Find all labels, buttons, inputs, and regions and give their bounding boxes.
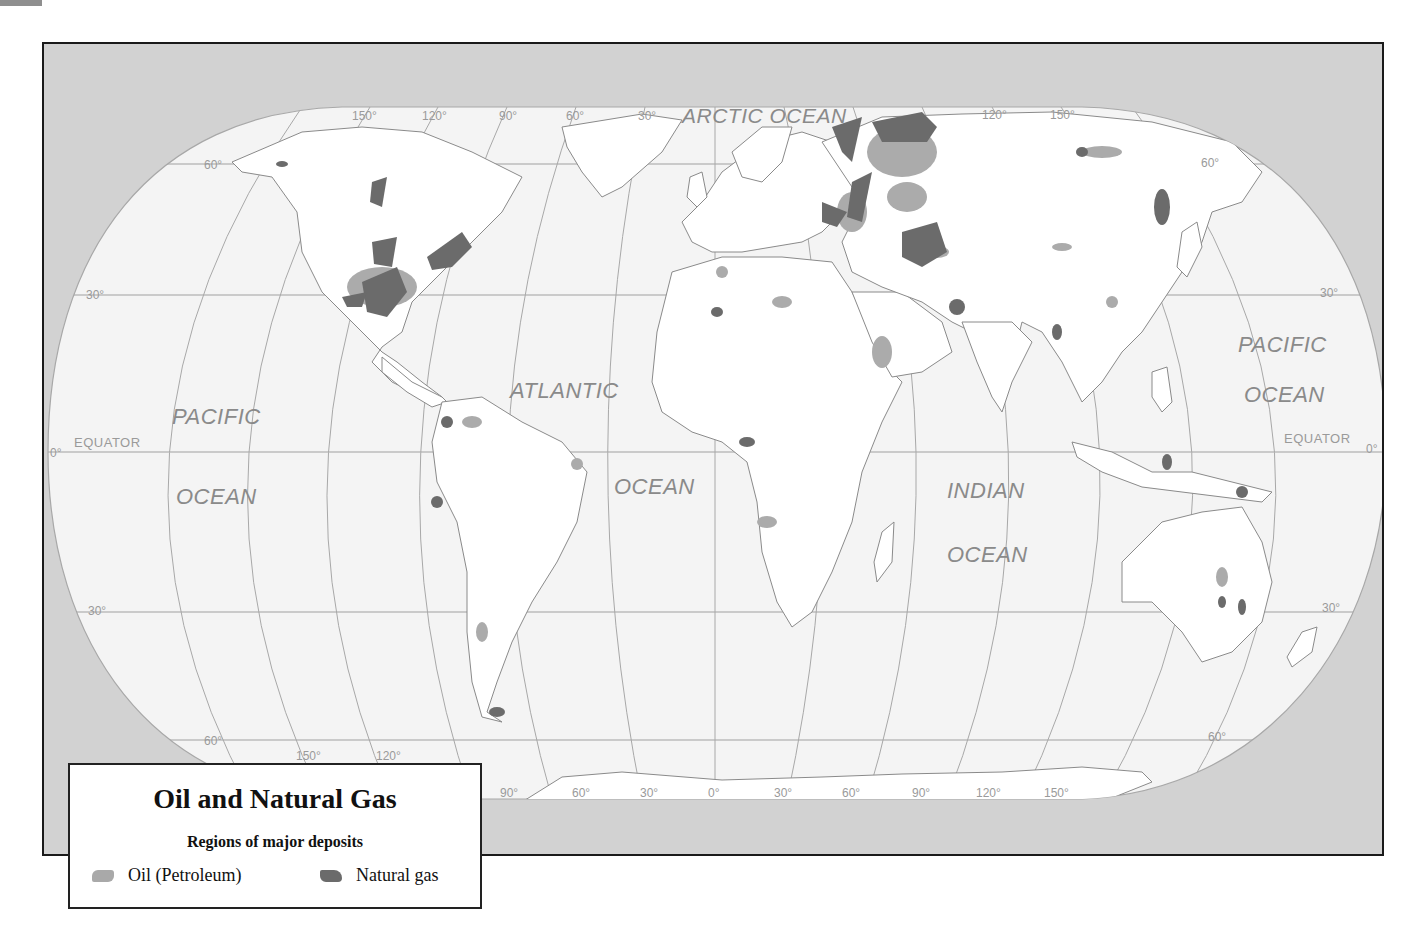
legend-item-oil: Oil (Petroleum)	[92, 865, 241, 886]
legend-subtitle: Regions of major deposits	[70, 833, 480, 851]
legend-item-gas: Natural gas	[320, 865, 438, 886]
lat-label-30s-right: 30°	[1322, 601, 1340, 615]
lon-label-bottom-120w: 120°	[376, 749, 401, 763]
gas-swatch-icon	[320, 870, 342, 882]
ocean-label-pacific-west: PACIFIC	[172, 404, 261, 430]
legend-title: Oil and Natural Gas	[70, 783, 480, 815]
lon-label-bottom-90e: 90°	[912, 786, 930, 800]
ocean-label-arctic: ARCTIC OCEAN	[682, 104, 847, 128]
lon-label-bottom-30w: 30°	[640, 786, 658, 800]
ocean-label-pacific-east: PACIFIC	[1238, 332, 1327, 358]
lon-label-top-120w: 120°	[422, 109, 447, 123]
lon-label-bottom-30e: 30°	[774, 786, 792, 800]
lon-label-bottom-90w: 90°	[500, 786, 518, 800]
corner-tab	[0, 0, 42, 6]
lon-label-top-150w: 150°	[352, 109, 377, 123]
lat-label-30n-left: 30°	[86, 288, 104, 302]
lat-label-0-right: 0°	[1366, 442, 1377, 456]
ocean-label-pacific-east-2: OCEAN	[1244, 382, 1325, 408]
lat-label-60n-right: 60°	[1201, 156, 1219, 170]
map-frame: ARCTIC OCEAN PACIFIC OCEAN ATLANTIC OCEA…	[42, 42, 1384, 856]
lon-label-bottom-150w: 150°	[296, 749, 321, 763]
legend: Oil and Natural Gas Regions of major dep…	[68, 763, 482, 909]
lon-label-bottom-60w: 60°	[572, 786, 590, 800]
lon-label-top-60w: 60°	[566, 109, 584, 123]
ocean-label-indian-2: OCEAN	[947, 542, 1028, 568]
lon-label-top-120e: 120°	[982, 108, 1007, 122]
lon-label-top-90w: 90°	[499, 109, 517, 123]
ocean-label-pacific-west-2: OCEAN	[176, 484, 257, 510]
lon-label-bottom-150e: 150°	[1044, 786, 1069, 800]
lat-label-60s-left: 60°	[204, 734, 222, 748]
ocean-label-indian: INDIAN	[947, 478, 1025, 504]
lat-label-0-left: 0°	[50, 446, 61, 460]
ocean-label-atlantic-2: OCEAN	[614, 474, 695, 500]
lat-label-30n-right: 30°	[1320, 286, 1338, 300]
lon-label-bottom-120e: 120°	[976, 786, 1001, 800]
lat-label-30s-left: 30°	[88, 604, 106, 618]
legend-label-oil: Oil (Petroleum)	[128, 865, 241, 886]
lon-label-bottom-0: 0°	[708, 786, 719, 800]
lat-label-60n-left: 60°	[204, 158, 222, 172]
lon-label-top-150e: 150°	[1050, 108, 1075, 122]
world-map	[44, 44, 1384, 856]
equator-label-right: EQUATOR	[1284, 431, 1351, 446]
oil-swatch-icon	[92, 870, 114, 882]
ocean-label-atlantic: ATLANTIC	[510, 378, 619, 404]
lon-label-bottom-60e: 60°	[842, 786, 860, 800]
equator-label-left: EQUATOR	[74, 435, 141, 450]
lon-label-top-30w: 30°	[638, 109, 656, 123]
lat-label-60s-right: 60°	[1208, 730, 1226, 744]
legend-label-gas: Natural gas	[356, 865, 438, 886]
